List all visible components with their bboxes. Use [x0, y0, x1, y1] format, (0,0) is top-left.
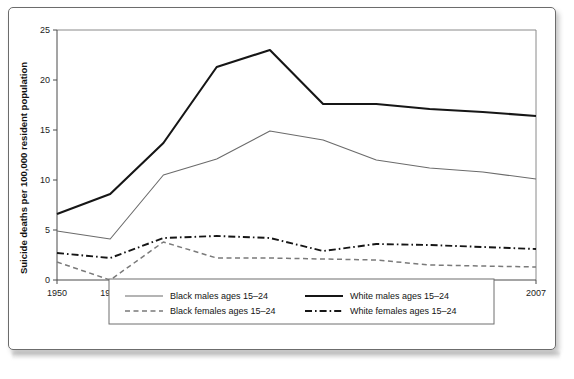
series-line [57, 242, 536, 280]
legend-label: White males ages 15–24 [350, 291, 449, 301]
y-axis-title: Suicide deaths per 100,000 resident popu… [18, 62, 29, 274]
card-drop-shadow [12, 352, 560, 360]
series-lines [57, 50, 536, 280]
figure-card: 0510152025 19501960197019801990200020042… [8, 7, 556, 350]
x-tick-label: 1950 [47, 288, 67, 298]
legend-label: White females ages 15–24 [350, 306, 457, 316]
y-tick-label: 0 [45, 275, 50, 285]
y-tick-label: 25 [40, 25, 50, 35]
series-line [57, 236, 536, 258]
legend-label: Black males ages 15–24 [170, 291, 268, 301]
y-axis: 0510152025 [40, 25, 57, 285]
page-root: 0510152025 19501960197019801990200020042… [0, 0, 574, 379]
y-tick-label: 20 [40, 75, 50, 85]
line-chart: 0510152025 19501960197019801990200020042… [9, 8, 557, 351]
series-line [57, 131, 536, 239]
plot-frame [57, 30, 536, 280]
y-tick-label: 15 [40, 125, 50, 135]
series-line [57, 50, 536, 214]
y-tick-label: 5 [45, 225, 50, 235]
chart-legend: Black males ages 15–24White males ages 1… [109, 279, 494, 324]
chart-container: 0510152025 19501960197019801990200020042… [9, 8, 557, 351]
legend-label: Black females ages 15–24 [170, 306, 276, 316]
x-tick-label: 2007 [526, 288, 546, 298]
y-tick-label: 10 [40, 175, 50, 185]
